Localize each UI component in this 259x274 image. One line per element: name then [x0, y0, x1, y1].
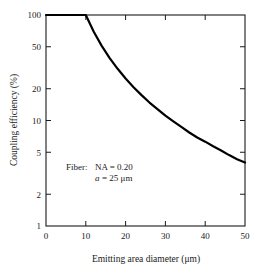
y-tick-label: 20 — [32, 84, 42, 94]
figure-container: 01020304050 125102050100 Emitting area d… — [0, 0, 259, 274]
y-tick-label: 10 — [32, 116, 42, 126]
coupling-efficiency-chart: 01020304050 125102050100 Emitting area d… — [0, 0, 259, 274]
y-tick-label: 50 — [32, 42, 42, 52]
annotation-core-radius-value: = 25 μm — [102, 173, 132, 183]
x-axis-title: Emitting area diameter (μm) — [92, 254, 200, 265]
x-tick-label: 50 — [241, 231, 251, 241]
y-tick-label: 5 — [37, 148, 42, 158]
y-tick-label: 100 — [28, 10, 42, 20]
y-tick-label: 2 — [37, 190, 42, 200]
x-tick-label: 0 — [44, 231, 49, 241]
annotation-core-radius-symbol: a — [95, 173, 100, 183]
x-tick-label: 10 — [81, 231, 91, 241]
x-tick-label: 30 — [161, 231, 171, 241]
annotation-fiber-label: Fiber: — [66, 162, 88, 172]
x-tick-label: 40 — [201, 231, 211, 241]
x-tick-label: 20 — [121, 231, 131, 241]
y-axis-title: Coupling efficiency (%) — [9, 74, 20, 166]
y-tick-label: 1 — [37, 221, 42, 231]
annotation-na-value: NA = 0.20 — [95, 162, 133, 172]
